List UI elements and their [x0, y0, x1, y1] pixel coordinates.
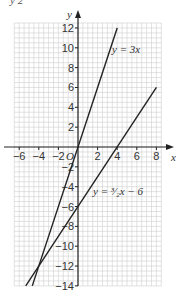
y-tick-label: 12 — [62, 22, 74, 34]
y-tick-label: 2 — [68, 121, 74, 133]
x-tick-label: 4 — [114, 150, 120, 162]
x-axis-arrow-icon — [166, 144, 174, 150]
y-tick-label: 10 — [62, 42, 74, 54]
origin-label: O — [66, 150, 74, 162]
y-tick-label: 8 — [68, 62, 74, 74]
chart: −6−4−2246812108642−2−4−6−8−10−12−14Oxy y… — [0, 0, 188, 302]
y-tick-label: 4 — [68, 101, 74, 113]
y-axis-label: y — [66, 8, 72, 20]
x-tick-label: 8 — [153, 150, 159, 162]
y-tick-label: −14 — [55, 280, 74, 292]
series-2-label: y = ³⁄₂x − 6 — [92, 185, 144, 197]
x-tick-label: 6 — [134, 150, 140, 162]
x-tick-label: 2 — [95, 150, 101, 162]
series-1-label: y = 3x — [111, 43, 140, 55]
x-axis-label: x — [170, 151, 176, 163]
x-tick-label: −6 — [13, 150, 26, 162]
y-tick-label: −6 — [61, 201, 74, 213]
x-tick-label: −4 — [33, 150, 46, 162]
y-tick-label: −12 — [55, 260, 74, 272]
axes — [4, 10, 174, 286]
y-tick-label: 6 — [68, 81, 74, 93]
y-tick-label: −10 — [55, 240, 74, 252]
y-axis-arrow-icon — [75, 10, 81, 18]
